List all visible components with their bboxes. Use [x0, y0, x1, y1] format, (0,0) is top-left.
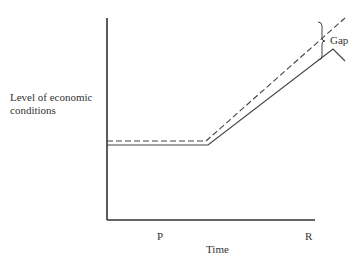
- x-axis-label: Time: [206, 243, 229, 256]
- y-axis-label-line2: conditions: [10, 104, 92, 117]
- x-tick-p: P: [157, 230, 163, 243]
- gap-annotation: Gap: [330, 34, 348, 47]
- chart-canvas: [0, 0, 360, 265]
- y-axis-label-line1: Level of economic: [10, 91, 92, 104]
- y-axis-label: Level of economic conditions: [10, 91, 92, 117]
- gap-brace-icon: [318, 22, 325, 60]
- solid-series-line: [107, 49, 345, 145]
- dashed-series-line: [107, 18, 345, 141]
- x-tick-r: R: [305, 230, 312, 243]
